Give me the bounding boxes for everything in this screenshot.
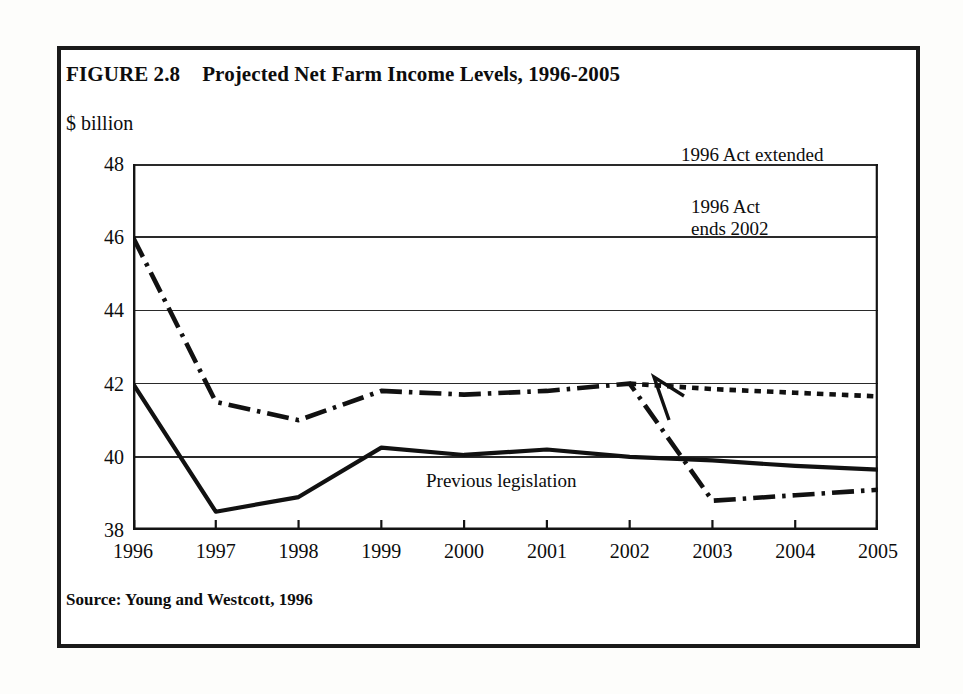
x-tick-label-2003: 2003 bbox=[692, 540, 732, 563]
x-tick-label-1996: 1996 bbox=[113, 540, 153, 563]
source-note: Source: Young and Westcott, 1996 bbox=[66, 590, 313, 610]
x-tick-label-2001: 2001 bbox=[527, 540, 567, 563]
x-tick-label-1998: 1998 bbox=[279, 540, 319, 563]
figure-root: FIGURE 2.8Projected Net Farm Income Leve… bbox=[0, 0, 963, 694]
y-tick-label-40: 40 bbox=[104, 445, 124, 468]
figure-title-text: Projected Net Farm Income Levels, 1996-2… bbox=[202, 62, 620, 86]
plot-area: 48 46 44 42 40 38 1996 1997 1998 1999 20… bbox=[133, 164, 878, 530]
x-tick-label-2005: 2005 bbox=[858, 540, 898, 563]
y-tick-label-46: 46 bbox=[104, 226, 124, 249]
y-tick-label-48: 48 bbox=[104, 153, 124, 176]
x-tick-label-1997: 1997 bbox=[196, 540, 236, 563]
x-tick-label-1999: 1999 bbox=[361, 540, 401, 563]
y-tick-label-44: 44 bbox=[104, 299, 124, 322]
annotation-1996-act-extended: 1996 Act extended bbox=[681, 144, 823, 165]
x-tick-label-2000: 2000 bbox=[444, 540, 484, 563]
y-tick-label-38: 38 bbox=[104, 519, 124, 542]
y-tick-label-42: 42 bbox=[104, 372, 124, 395]
figure-title: FIGURE 2.8Projected Net Farm Income Leve… bbox=[66, 62, 620, 87]
annotation-1996-act-ends-2002-line1: 1996 Act bbox=[691, 196, 760, 217]
annotation-previous-legislation: Previous legislation bbox=[426, 470, 576, 491]
gridlines bbox=[133, 165, 878, 457]
x-tick-label-2004: 2004 bbox=[775, 540, 815, 563]
y-axis-unit-label: $ billion bbox=[66, 112, 133, 135]
series-line-previous-legislation bbox=[133, 384, 878, 512]
figure-number: FIGURE 2.8 bbox=[66, 62, 180, 86]
annotation-1996-act-ends-2002-line2: ends 2002 bbox=[691, 218, 769, 239]
x-tick-label-2002: 2002 bbox=[610, 540, 650, 563]
series-line-1996-act-ends-2002 bbox=[133, 237, 878, 501]
